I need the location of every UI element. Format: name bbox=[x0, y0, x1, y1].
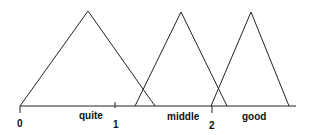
set-label-quite: quite bbox=[79, 111, 103, 121]
triangle-middle bbox=[135, 12, 227, 106]
triangle-quite bbox=[20, 11, 155, 106]
tick-label-1: 1 bbox=[113, 120, 119, 130]
triangle-good bbox=[211, 12, 289, 106]
tick-label-2: 2 bbox=[209, 121, 215, 131]
set-label-good: good bbox=[242, 112, 266, 122]
tick-label-0: 0 bbox=[17, 119, 23, 129]
set-label-middle: middle bbox=[167, 112, 199, 122]
